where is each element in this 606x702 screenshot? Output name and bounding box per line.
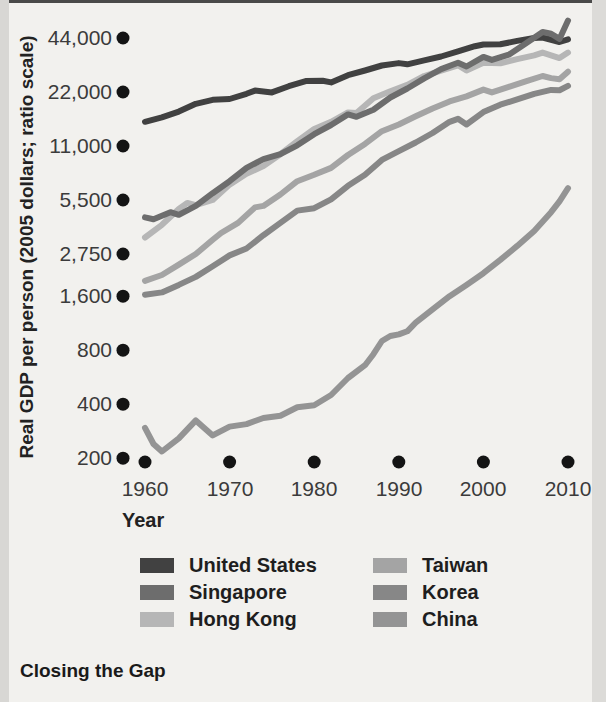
- legend-label-china: China: [422, 608, 478, 631]
- legend-item-singapore: Singapore: [140, 584, 287, 600]
- legend-label-korea: Korea: [422, 581, 479, 604]
- legend-item-taiwan: Taiwan: [373, 557, 488, 573]
- y-tick-dot-5,500: [117, 194, 130, 207]
- singapore-swatch: [140, 585, 174, 600]
- hong-kong-swatch: [140, 612, 174, 627]
- x-tick-label: 2000: [441, 478, 525, 500]
- y-tick-label: 200: [32, 447, 112, 469]
- x-tick-label: 2010: [526, 478, 606, 500]
- y-tick-label: 5,500: [32, 189, 112, 211]
- figure-caption: Closing the Gap: [20, 660, 166, 682]
- legend-label-taiwan: Taiwan: [422, 554, 488, 577]
- scanned-chart-page: Real GDP per person (2005 dollars; ratio…: [0, 0, 606, 702]
- y-tick-label: 11,000: [32, 135, 112, 157]
- united-states-swatch: [140, 558, 174, 573]
- x-tick-dot-2010: [562, 456, 575, 469]
- legend-label-hong-kong: Hong Kong: [189, 608, 297, 631]
- taiwan-swatch: [373, 558, 407, 573]
- y-tick-dot-200: [117, 452, 130, 465]
- legend-item-united-states: United States: [140, 557, 317, 573]
- x-tick-label: 1990: [357, 478, 441, 500]
- x-tick-label: 1960: [103, 478, 187, 500]
- y-tick-dot-400: [117, 398, 130, 411]
- x-tick-dot-1980: [308, 456, 321, 469]
- x-tick-dot-1970: [223, 456, 236, 469]
- y-tick-dot-44,000: [117, 32, 130, 45]
- legend-item-korea: Korea: [373, 584, 479, 600]
- y-tick-label: 800: [32, 339, 112, 361]
- y-tick-label: 1,600: [32, 285, 112, 307]
- x-tick-dot-1990: [392, 456, 405, 469]
- line-hong-kong: [145, 53, 568, 238]
- x-tick-dot-2000: [477, 456, 490, 469]
- line-singapore: [145, 21, 568, 220]
- y-tick-dot-22,000: [117, 86, 130, 99]
- legend-label-united-states: United States: [189, 554, 317, 577]
- legend-item-china: China: [373, 611, 478, 627]
- x-tick-label: 1970: [188, 478, 272, 500]
- y-tick-dot-1,600: [117, 290, 130, 303]
- y-tick-label: 44,000: [32, 27, 112, 49]
- y-tick-dot-2,750: [117, 248, 130, 261]
- y-tick-label: 400: [32, 393, 112, 415]
- legend-label-singapore: Singapore: [189, 581, 287, 604]
- y-tick-label: 22,000: [32, 81, 112, 103]
- y-tick-dot-800: [117, 344, 130, 357]
- china-swatch: [373, 612, 407, 627]
- x-tick-dot-1960: [139, 456, 152, 469]
- line-china: [145, 188, 568, 451]
- legend-item-hong-kong: Hong Kong: [140, 611, 297, 627]
- y-tick-label: 2,750: [32, 243, 112, 265]
- x-tick-label: 1980: [272, 478, 356, 500]
- korea-swatch: [373, 585, 407, 600]
- y-tick-dot-11,000: [117, 140, 130, 153]
- plot-area: Real GDP per person (2005 dollars; ratio…: [0, 0, 606, 540]
- x-axis-title: Year: [122, 509, 164, 532]
